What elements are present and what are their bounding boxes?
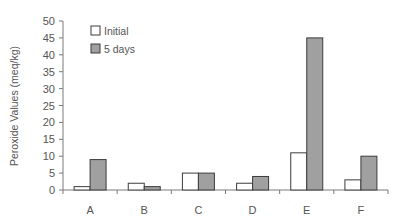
bar-5-days-e <box>307 38 323 190</box>
y-tick-label: 50 <box>43 15 55 27</box>
bar-5-days-d <box>253 176 269 190</box>
bar-5-days-c <box>198 173 214 190</box>
y-tick-label: 40 <box>43 49 55 61</box>
legend-label: Initial <box>104 25 129 37</box>
bars <box>74 38 377 190</box>
bar-initial-b <box>128 183 144 190</box>
y-axis-label: Peroxide Values (meq/kg) <box>8 46 20 166</box>
legend-label: 5 days <box>104 43 135 55</box>
y-tick-label: 30 <box>43 83 55 95</box>
x-category-label: E <box>303 204 310 216</box>
bar-initial-f <box>345 180 361 190</box>
bar-initial-e <box>291 153 307 190</box>
y-tick-label: 15 <box>43 133 55 145</box>
y-axis: 05101520253035404550 <box>43 15 63 196</box>
x-category-label: B <box>141 204 148 216</box>
bar-initial-a <box>74 187 90 190</box>
x-axis: ABCDEF <box>63 190 388 216</box>
y-tick-label: 0 <box>49 184 55 196</box>
bar-chart: 05101520253035404550 ABCDEF Initial5 day… <box>0 0 410 223</box>
bar-initial-d <box>237 183 253 190</box>
y-tick-label: 25 <box>43 100 55 112</box>
bar-5-days-f <box>361 156 377 190</box>
y-tick-label: 5 <box>49 167 55 179</box>
x-category-label: C <box>194 204 202 216</box>
y-tick-label: 10 <box>43 150 55 162</box>
bar-initial-c <box>182 173 198 190</box>
y-tick-label: 45 <box>43 32 55 44</box>
legend: Initial5 days <box>91 25 135 55</box>
y-tick-label: 20 <box>43 116 55 128</box>
legend-swatch-initial <box>91 26 100 35</box>
legend-swatch-5-days <box>91 44 100 53</box>
bar-5-days-a <box>90 160 106 190</box>
y-tick-label: 35 <box>43 66 55 78</box>
x-category-label: A <box>86 204 94 216</box>
x-category-label: F <box>358 204 365 216</box>
x-category-label: D <box>249 204 257 216</box>
bar-5-days-b <box>144 187 160 190</box>
